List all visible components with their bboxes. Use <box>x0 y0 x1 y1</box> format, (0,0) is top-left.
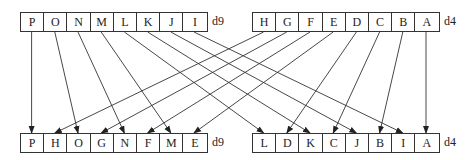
register-cell: G <box>276 13 299 31</box>
arrow-n <box>78 32 124 133</box>
register-cell: P <box>21 134 44 152</box>
arrow-e <box>194 32 333 133</box>
arrow-o <box>55 32 78 133</box>
register-cell: E <box>323 13 346 31</box>
register-cell: C <box>369 13 392 31</box>
register-cell: A <box>415 13 438 31</box>
register-cell: A <box>415 134 438 152</box>
register-cell: H <box>253 13 276 31</box>
register-cell: K <box>299 134 322 152</box>
arrow-b <box>380 32 403 133</box>
arrow-m <box>101 32 171 133</box>
bottom-right-register: LDKCJBIA <box>252 133 440 153</box>
register-cell: N <box>114 134 137 152</box>
register-cell: J <box>160 13 183 31</box>
register-cell: L <box>114 13 137 31</box>
register-cell: P <box>21 13 44 31</box>
register-cell: E <box>183 134 206 152</box>
top-left-label: d9 <box>212 12 224 30</box>
register-cell: I <box>392 134 415 152</box>
register-cell: N <box>67 13 90 31</box>
register-cell: M <box>160 134 183 152</box>
register-cell: M <box>91 13 114 31</box>
register-cell: B <box>392 13 415 31</box>
register-cell: F <box>299 13 322 31</box>
register-cell: I <box>183 13 206 31</box>
register-cell: D <box>346 13 369 31</box>
register-cell: L <box>253 134 276 152</box>
register-cell: O <box>67 134 90 152</box>
arrow-d <box>287 32 357 133</box>
arrow-h <box>55 32 264 133</box>
bottom-left-label: d9 <box>212 133 224 151</box>
top-left-register: PONMLKJI <box>20 12 208 32</box>
register-cell: C <box>323 134 346 152</box>
top-right-register: HGFEDCBA <box>252 12 440 32</box>
top-right-label: d4 <box>444 12 456 30</box>
register-cell: F <box>137 134 160 152</box>
register-cell: J <box>346 134 369 152</box>
register-cell: D <box>276 134 299 152</box>
register-cell: B <box>369 134 392 152</box>
register-cell: G <box>91 134 114 152</box>
arrow-c <box>333 32 379 133</box>
register-cell: K <box>137 13 160 31</box>
register-cell: H <box>44 134 67 152</box>
register-cell: O <box>44 13 67 31</box>
bottom-left-register: PHOGNFME <box>20 133 208 153</box>
arrow-g <box>101 32 287 133</box>
bottom-right-label: d4 <box>444 133 456 151</box>
arrow-i <box>194 32 403 133</box>
